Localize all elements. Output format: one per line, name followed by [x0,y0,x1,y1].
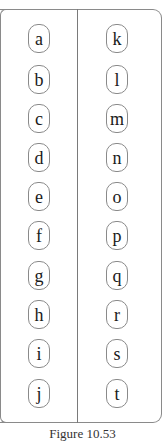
letter-pill: s [106,339,128,368]
figure-caption: Figure 10.53 [0,426,165,442]
letter-pill: m [106,104,128,133]
letter-pill: t [106,379,128,408]
letter-pill: q [106,261,128,290]
letter-pill: i [28,339,50,368]
column-divider [77,9,78,423]
letter-pill: e [28,182,50,211]
letter-pill: b [28,65,50,94]
letter-pill: p [106,221,128,250]
letter-pill: l [106,65,128,94]
letter-pill: r [106,300,128,329]
letter-pill: a [28,24,50,53]
letter-pill: o [106,182,128,211]
letter-pill: d [28,143,50,172]
letter-pill: k [106,24,128,53]
letter-pill: h [28,300,50,329]
letter-pill: j [28,379,50,408]
letter-pill: f [28,221,50,250]
figure-frame [0,9,162,423]
letter-pill: g [28,261,50,290]
letter-pill: c [28,104,50,133]
letter-pill: n [106,143,128,172]
